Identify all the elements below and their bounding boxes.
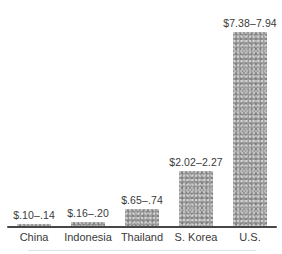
- value-label-s-korea: $2.02–2.27: [169, 156, 223, 168]
- value-label-thailand: $.65–.74: [121, 194, 163, 206]
- bar-chart-figure: $.10–.14$.16–.20$.65–.74$2.02–2.27$7.38–…: [0, 0, 282, 254]
- bar-group-indonesia: $.16–.20: [61, 17, 115, 227]
- bar-group-u-s: $7.38–7.94: [223, 17, 277, 227]
- category-label-thailand: Thailand: [115, 231, 169, 244]
- bar-thailand: [125, 209, 159, 227]
- bar-u-s: [233, 32, 267, 227]
- x-axis-line: [7, 226, 277, 228]
- category-label-china: China: [7, 231, 61, 244]
- bar-group-s-korea: $2.02–2.27: [169, 17, 223, 227]
- value-label-indonesia: $.16–.20: [67, 207, 109, 219]
- category-label-u-s: U.S.: [223, 231, 277, 244]
- value-label-u-s: $7.38–7.94: [223, 17, 277, 29]
- bar-group-china: $.10–.14: [7, 17, 61, 227]
- x-axis-labels: ChinaIndonesiaThailandS. KoreaU.S.: [7, 231, 277, 244]
- plot-area: $.10–.14$.16–.20$.65–.74$2.02–2.27$7.38–…: [7, 17, 277, 227]
- bar-group-thailand: $.65–.74: [115, 17, 169, 227]
- category-label-s-korea: S. Korea: [169, 231, 223, 244]
- bar-s-korea: [179, 171, 213, 227]
- page-rule: [28, 250, 256, 251]
- category-label-indonesia: Indonesia: [61, 231, 115, 244]
- value-label-china: $.10–.14: [13, 209, 55, 221]
